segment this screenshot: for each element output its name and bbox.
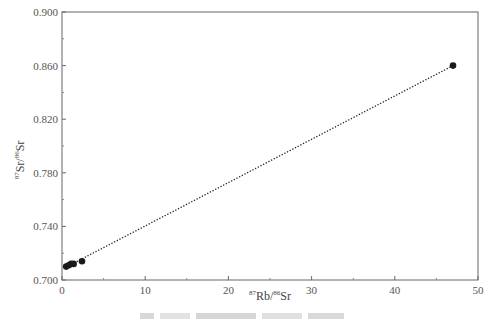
- y-tick-label: 0.740: [33, 220, 58, 232]
- x-axis-title: 87Rb/86Sr: [249, 289, 291, 303]
- y-tick-label: 0.780: [33, 167, 58, 179]
- y-tick-label: 0.900: [33, 6, 58, 18]
- x-tick-label: 0: [59, 284, 65, 296]
- y-tick-label: 0.860: [33, 60, 58, 72]
- y-axis-title: 87Sr/86Sr: [13, 141, 27, 180]
- data-point: [70, 261, 77, 268]
- fit-line: [66, 66, 453, 268]
- y-tick-label: 0.820: [33, 113, 58, 125]
- x-tick-label: 40: [389, 284, 401, 296]
- data-points: [63, 62, 456, 270]
- x-tick-label: 10: [140, 284, 152, 296]
- plot-area: [62, 12, 478, 280]
- isochron-chart: 010203040500.7000.7400.7800.8200.8600.90…: [0, 0, 496, 322]
- axis-ticks: 010203040500.7000.7400.7800.8200.8600.90…: [33, 6, 484, 296]
- data-point: [79, 258, 86, 265]
- x-tick-label: 20: [223, 284, 235, 296]
- y-tick-label: 0.700: [33, 274, 58, 286]
- x-tick-label: 30: [306, 284, 318, 296]
- x-tick-label: 50: [473, 284, 485, 296]
- figure-caption: [140, 313, 344, 319]
- data-point: [450, 62, 457, 69]
